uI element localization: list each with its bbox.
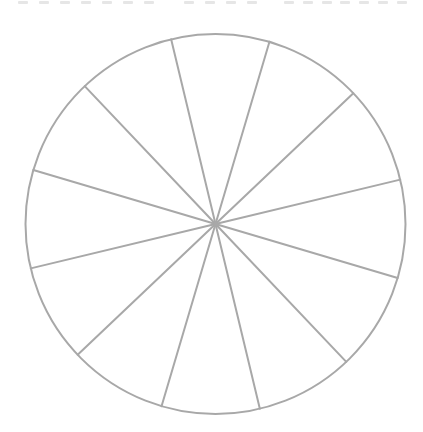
wheel-hub bbox=[213, 222, 218, 227]
segmented-wheel bbox=[0, 0, 423, 432]
